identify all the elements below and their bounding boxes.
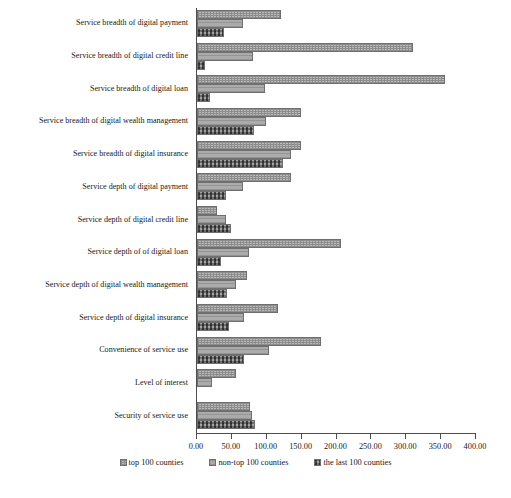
bar <box>197 182 243 191</box>
category-label: Convenience of service use <box>99 345 188 355</box>
axis-tick <box>336 434 337 439</box>
bar <box>197 126 254 135</box>
bar <box>197 10 281 19</box>
category-label: Service depth of digital wealth manageme… <box>45 280 188 290</box>
bar-group <box>197 239 476 266</box>
legend-swatch-icon <box>209 459 216 466</box>
bar <box>197 159 283 168</box>
axis-tick <box>266 434 267 439</box>
legend-label: non-top 100 counties <box>218 458 288 467</box>
bar <box>197 224 231 233</box>
bar <box>197 289 227 298</box>
category-label: Service breadth of digital payment <box>76 18 188 28</box>
category-label: Service depth of digital credit line <box>78 215 188 225</box>
bar <box>197 420 255 429</box>
legend-label: the last 100 counties <box>323 458 391 467</box>
bar <box>197 84 265 93</box>
bar <box>197 173 291 182</box>
bar <box>197 257 221 266</box>
axis-tick <box>475 434 476 439</box>
bar <box>197 43 413 52</box>
axis-tick <box>440 434 441 439</box>
bar <box>197 191 226 200</box>
legend-item[interactable]: non-top 100 counties <box>209 458 288 467</box>
bar-group <box>197 206 476 233</box>
axis-tick <box>231 434 232 439</box>
category-label: Service breadth of digital wealth manage… <box>39 116 188 126</box>
bar <box>197 239 341 248</box>
axis-tick-label: 400.00 <box>464 441 487 452</box>
axis-tick <box>405 434 406 439</box>
axis-tick-label: 300.00 <box>394 441 417 452</box>
bar <box>197 322 229 331</box>
axis-tick <box>196 434 197 439</box>
bar <box>197 108 301 117</box>
bar <box>197 248 249 257</box>
bar-group <box>197 402 476 429</box>
bar <box>197 313 244 322</box>
category-label: Service depth of digital insurance <box>79 313 188 323</box>
bar <box>197 402 250 411</box>
bar <box>197 141 301 150</box>
category-label: Security of service use <box>115 411 189 421</box>
category-label: Service breadth of digital insurance <box>73 149 188 159</box>
bar <box>197 150 291 159</box>
legend-swatch-icon <box>120 459 127 466</box>
bar <box>197 28 224 37</box>
bar <box>197 355 244 364</box>
bar <box>197 206 217 215</box>
category-label: Level of interest <box>135 378 188 388</box>
bar <box>197 411 252 420</box>
legend-item[interactable]: the last 100 counties <box>314 458 391 467</box>
axis-tick <box>301 434 302 439</box>
legend-label: top 100 counties <box>129 458 184 467</box>
axis-tick-label: 350.00 <box>429 441 452 452</box>
bar-group <box>197 173 476 200</box>
chart-legend: top 100 countiesnon-top 100 countiesthe … <box>0 458 511 467</box>
bar <box>197 378 212 387</box>
bar-group <box>197 75 476 102</box>
axis-tick-label: 100.00 <box>254 441 277 452</box>
category-label: Service depth of digital payment <box>82 182 188 192</box>
bar-group <box>197 10 476 37</box>
bar <box>197 271 247 280</box>
bar <box>197 52 253 61</box>
bar-group <box>197 337 476 364</box>
category-label: Service depth of of digital loan <box>88 247 188 257</box>
bar-group <box>197 369 476 396</box>
axis-tick-label: 0.00 <box>189 441 204 452</box>
plot-area: 0.0050.00100.00150.00200.00250.00300.003… <box>196 8 475 433</box>
bar <box>197 93 210 102</box>
axis-tick-label: 150.00 <box>289 441 312 452</box>
bar-group <box>197 271 476 298</box>
bar <box>197 75 445 84</box>
bar <box>197 215 226 224</box>
bar-group <box>197 141 476 168</box>
category-label: Service breadth of digital loan <box>90 84 188 94</box>
bar <box>197 19 243 28</box>
bar <box>197 369 236 378</box>
bar <box>197 61 205 70</box>
bar <box>197 280 236 289</box>
axis-tick-label: 250.00 <box>359 441 382 452</box>
axis-tick-label: 200.00 <box>324 441 347 452</box>
bar-group <box>197 304 476 331</box>
bar <box>197 346 269 355</box>
bar <box>197 337 321 346</box>
legend-item[interactable]: top 100 counties <box>120 458 184 467</box>
legend-swatch-icon <box>314 459 321 466</box>
bar-group <box>197 108 476 135</box>
horizontal-bar-chart: Service breadth of digital paymentServic… <box>0 0 511 498</box>
axis-tick-label: 50.00 <box>222 441 241 452</box>
bar-group <box>197 43 476 70</box>
category-label: Service breadth of digital credit line <box>71 51 188 61</box>
bar <box>197 117 266 126</box>
bar <box>197 304 278 313</box>
axis-tick <box>370 434 371 439</box>
